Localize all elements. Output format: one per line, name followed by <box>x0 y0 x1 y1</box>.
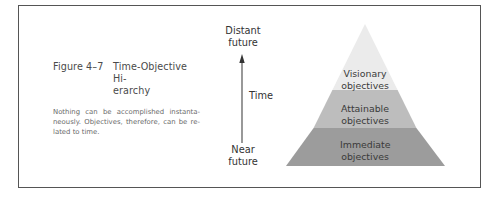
figure-title: Time-Objective Hi- erarchy <box>113 61 203 97</box>
description-line: lated to time. <box>53 128 100 136</box>
distant-future-line2: future <box>228 37 258 48</box>
visionary-objectives-label: Visionary objectives <box>340 68 390 91</box>
attainable-line2: objectives <box>341 115 389 126</box>
figure-description: Nothing can be accomplished instanta- ne… <box>53 107 200 137</box>
caption-heading: Figure 4–7 Time-Objective Hi- erarchy <box>53 61 203 97</box>
distant-future-label: Distant future <box>220 25 266 49</box>
description-line: neously. Objectives, therefore, can be r… <box>53 118 200 126</box>
immediate-line2: objectives <box>341 151 389 162</box>
time-arrow-up-icon <box>236 54 248 146</box>
figure-number: Figure 4–7 <box>53 61 113 97</box>
figure-caption: Figure 4–7 Time-Objective Hi- erarchy No… <box>53 61 203 137</box>
description-line: Nothing can be accomplished instanta- <box>53 108 200 116</box>
visionary-line1: Visionary <box>343 68 386 79</box>
near-future-line1: Near <box>231 144 254 155</box>
distant-future-line1: Distant <box>225 25 260 36</box>
immediate-objectives-label: Immediate objectives <box>340 139 390 162</box>
near-future-label: Near future <box>220 144 266 168</box>
attainable-objectives-label: Attainable objectives <box>340 103 390 126</box>
attainable-line1: Attainable <box>341 103 389 114</box>
time-axis-label: Time <box>249 90 273 102</box>
immediate-line1: Immediate <box>340 139 391 150</box>
near-future-line2: future <box>228 156 258 167</box>
visionary-line2: objectives <box>341 80 389 91</box>
figure-title-line2: erarchy <box>113 85 150 96</box>
figure-title-line1: Time-Objective Hi- <box>113 61 187 84</box>
